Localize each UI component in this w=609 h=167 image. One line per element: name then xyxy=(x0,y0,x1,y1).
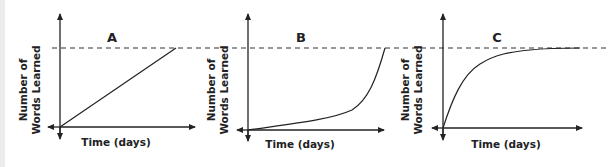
panel-b: B Time (days) Number of Words Learned xyxy=(205,14,385,150)
y-axis-title-line1: Number of xyxy=(205,58,217,121)
y-axis-title-line2: Words Learned xyxy=(412,45,424,134)
x-axis-title: Time (days) xyxy=(471,138,540,150)
y-axis-title-line2: Words Learned xyxy=(218,45,230,134)
exponential-curve xyxy=(248,48,385,130)
y-axis-title-line1: Number of xyxy=(17,58,29,121)
linear-curve xyxy=(60,48,176,127)
x-axis-title: Time (days) xyxy=(265,138,334,150)
panel-label: A xyxy=(107,30,117,45)
panel-label: C xyxy=(492,30,502,45)
plateau-curve xyxy=(443,48,580,128)
panel-c: C Time (days) Number of Words Learned xyxy=(399,14,582,150)
x-axis-title: Time (days) xyxy=(81,136,150,148)
panel-label: B xyxy=(296,30,306,45)
y-axis-title-line1: Number of xyxy=(399,58,411,121)
y-axis-title-line2: Words Learned xyxy=(30,45,42,134)
panel-a: A Time (days) Number of Words Learned xyxy=(17,14,195,148)
learning-curves-diagram: A Time (days) Number of Words Learned B … xyxy=(0,0,609,167)
